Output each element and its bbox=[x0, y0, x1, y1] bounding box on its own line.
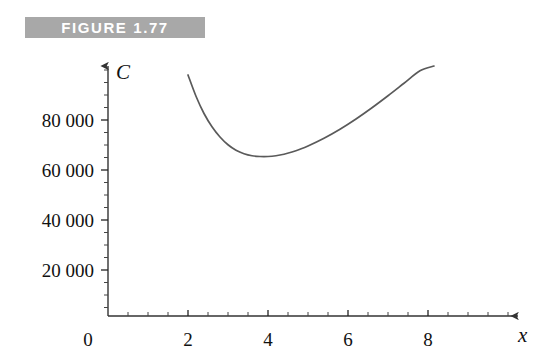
cost-curve-path bbox=[188, 66, 434, 157]
y-tick-label-40000: 40 000 bbox=[22, 211, 94, 230]
x-tick-label-2: 2 bbox=[183, 330, 193, 349]
x-tick-label-8: 8 bbox=[423, 330, 433, 349]
x-axis-name-label: x bbox=[518, 325, 527, 346]
x-tick-label-4: 4 bbox=[263, 330, 273, 349]
y-axis-name-label: C bbox=[116, 62, 130, 83]
x-tick-label-0: 0 bbox=[83, 330, 93, 349]
y-tick-label-80000: 80 000 bbox=[22, 111, 94, 130]
x-tick-label-6: 6 bbox=[343, 330, 353, 349]
y-tick-label-60000: 60 000 bbox=[22, 161, 94, 180]
figure-container: FIGURE 1.77 bbox=[0, 0, 538, 356]
y-tick-label-20000: 20 000 bbox=[22, 261, 94, 280]
